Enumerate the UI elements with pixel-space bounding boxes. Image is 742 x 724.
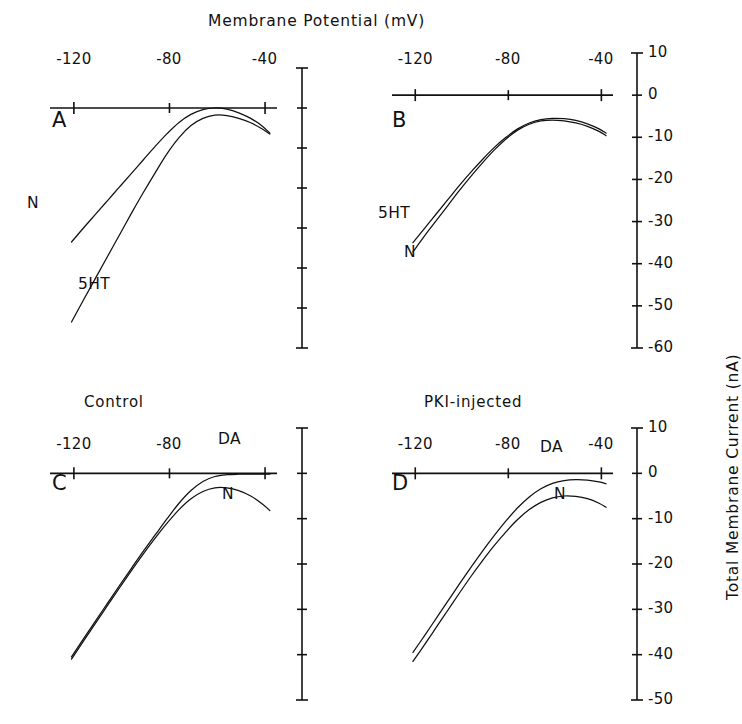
x-tick-label: -120: [398, 437, 433, 452]
y-tick-label: 10: [648, 45, 668, 60]
curve-label-da: DA: [540, 440, 563, 456]
y-tick-label: -10: [648, 511, 673, 526]
x-tick-label: -40: [588, 437, 613, 452]
y-tick-label: -20: [648, 171, 673, 186]
curve-label-5ht: 5HT: [78, 277, 110, 293]
y-axis-title: Total Membrane Current (nA): [724, 354, 742, 600]
panel-letter-c: C: [52, 473, 67, 494]
y-tick-label: 0: [648, 87, 658, 102]
y-tick-label: -40: [648, 647, 673, 662]
panel-b: [392, 53, 643, 348]
curve-label-n: N: [27, 196, 39, 212]
x-tick-label: -120: [56, 52, 91, 67]
x-tick-label: -80: [156, 52, 181, 67]
panel-c: [50, 428, 308, 700]
y-tick-label: -60: [648, 340, 673, 355]
curve-label-da: DA: [218, 432, 241, 448]
panel-letter-a: A: [52, 110, 67, 131]
curve-da: [413, 480, 606, 653]
x-tick-label: -40: [588, 52, 613, 67]
y-tick-label: -30: [648, 214, 673, 229]
y-tick-label: -50: [648, 692, 673, 707]
panel-letter-d: D: [392, 473, 409, 494]
y-tick-label: -10: [648, 129, 673, 144]
panel-letter-b: B: [392, 110, 407, 131]
figure-title: Membrane Potential (mV): [208, 14, 425, 30]
curve-label-n: N: [554, 487, 566, 503]
curve-label-n: N: [404, 245, 416, 261]
panel-caption-c: Control: [84, 395, 144, 410]
curve-da: [72, 474, 270, 657]
curve-n: [413, 496, 606, 662]
y-tick-label: -20: [648, 556, 673, 571]
y-tick-label: -50: [648, 298, 673, 313]
panel-d: [392, 428, 643, 700]
y-tick-label: 10: [648, 420, 668, 435]
x-tick-label: -80: [495, 52, 520, 67]
curve-label-n: N: [222, 487, 234, 503]
panel-caption-d: PKI-injected: [424, 395, 522, 410]
x-tick-label: -120: [398, 52, 433, 67]
x-tick-label: -80: [156, 437, 181, 452]
y-tick-label: -30: [648, 601, 673, 616]
y-tick-label: 0: [648, 465, 658, 480]
x-tick-label: -120: [56, 437, 91, 452]
curve-n: [72, 108, 270, 242]
y-tick-label: -40: [648, 256, 673, 271]
curve-label-5ht: 5HT: [378, 206, 410, 222]
x-tick-label: -40: [252, 52, 277, 67]
panel-a: [50, 68, 308, 348]
curve-5ht: [413, 118, 606, 242]
curve-n: [413, 120, 606, 252]
x-tick-label: -80: [495, 437, 520, 452]
